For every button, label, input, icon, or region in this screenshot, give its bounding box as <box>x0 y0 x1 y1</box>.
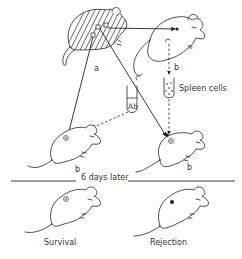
recipient-ab-tail <box>28 160 52 168</box>
graft-intact-icon <box>64 136 69 141</box>
spleen-cells-tube <box>164 78 174 98</box>
spleen-donor-strain-label: b <box>174 63 179 72</box>
outcome-rejection-mouse <box>134 187 209 236</box>
diagram-canvas: a b Spleen cells Ab <box>0 0 242 259</box>
donor-strain-label: a <box>94 64 99 73</box>
outcome-survival-label: Survival <box>44 238 76 247</box>
outcome-rejection-label: Rejection <box>150 238 187 247</box>
survival-body <box>50 187 100 226</box>
survival-tail <box>25 224 52 233</box>
antibody-label: Ab <box>128 102 138 111</box>
divider-label: 6 days later <box>81 173 129 182</box>
spleen-donor-body <box>148 17 205 62</box>
graft-rejected-icon <box>170 200 174 204</box>
edge-ab-to-recipient <box>92 112 128 128</box>
graft-intact-icon-2 <box>169 139 174 144</box>
recipient-spleen-tail <box>136 160 160 172</box>
graft-site-1 <box>96 25 100 29</box>
graft-site-3 <box>91 33 95 37</box>
rejection-tail <box>134 226 160 236</box>
donor-foot <box>117 40 121 45</box>
recipient-mouse-ab <box>28 125 101 168</box>
recipient-mouse-spleen <box>136 131 205 172</box>
recipient-ab-strain-label: b <box>75 165 80 174</box>
spleen-donor-mouse-b <box>134 14 205 80</box>
spleen-cells-label: Spleen cells <box>179 84 227 93</box>
recipient-spleen-strain-label: b <box>187 163 192 172</box>
spleen-donor-graft-dot <box>175 27 178 30</box>
recipient-ab-body <box>50 125 100 163</box>
injection-site <box>165 133 169 137</box>
rejection-body <box>158 187 208 228</box>
graft-site-2 <box>104 23 108 27</box>
spleen-donor-tail <box>134 40 150 76</box>
outcome-survival-mouse <box>25 187 101 233</box>
graft-surviving-icon <box>64 197 69 202</box>
recipient-spleen-body <box>158 131 204 167</box>
